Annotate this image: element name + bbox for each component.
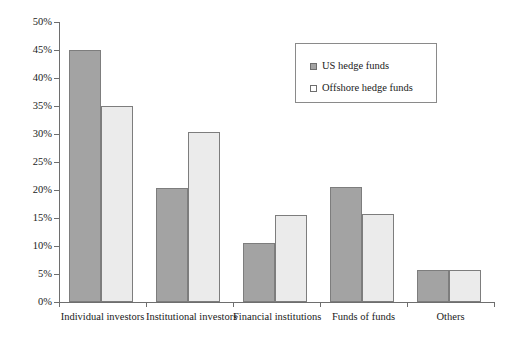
y-axis-label: 10% [8, 241, 52, 252]
x-axis-tick [233, 302, 234, 307]
x-axis-tick [494, 302, 495, 307]
y-axis-label: 50% [8, 17, 52, 28]
x-axis-tick [320, 302, 321, 307]
x-axis-category-label: Financial institutions [233, 311, 320, 323]
legend-item-label: Offshore hedge funds [322, 83, 413, 94]
bar-offshore-funds-of-funds [362, 214, 394, 302]
bar-us-individual-investors [69, 50, 101, 302]
bar-us-others [417, 270, 449, 303]
legend-item-label: US hedge funds [322, 61, 389, 72]
legend-item-offshore-hedge-funds: Offshore hedge funds [310, 77, 436, 99]
y-axis-label: 40% [8, 73, 52, 84]
legend-item-us-hedge-funds: US hedge funds [310, 55, 436, 77]
light-square-swatch-icon [310, 85, 317, 92]
y-axis-label: 45% [8, 45, 52, 56]
bar-us-institutional-investors [156, 188, 188, 302]
x-axis-category-label: Institutional investors [146, 311, 233, 323]
bar-offshore-individual-investors [101, 106, 133, 302]
y-axis-label: 30% [8, 129, 52, 140]
x-axis-line [59, 302, 495, 303]
y-axis-label: 15% [8, 213, 52, 224]
y-axis-label: 25% [8, 157, 52, 168]
y-axis-label: 20% [8, 185, 52, 196]
y-axis-label: 5% [8, 269, 52, 280]
bar-offshore-others [449, 270, 481, 303]
bar-offshore-institutional-investors [188, 132, 220, 302]
bar-us-financial-institutions [243, 243, 275, 302]
chart-legend: US hedge funds Offshore hedge funds [295, 43, 437, 103]
x-axis-tick [59, 302, 60, 307]
bar-us-funds-of-funds [330, 187, 362, 302]
x-axis-category-label: Others [407, 311, 494, 323]
dark-square-swatch-icon [310, 63, 317, 70]
bar-offshore-financial-institutions [275, 215, 307, 302]
x-axis-tick [146, 302, 147, 307]
bar-chart: 50% 45% 40% 35% 30% 25% 20% 15% 10% 5% 0 [0, 0, 509, 345]
y-axis-label: 0% [8, 297, 52, 308]
x-axis-tick [407, 302, 408, 307]
y-axis-label: 35% [8, 101, 52, 112]
x-axis-category-label: Funds of funds [320, 311, 407, 323]
x-axis-category-label: Individual investors [59, 311, 146, 323]
